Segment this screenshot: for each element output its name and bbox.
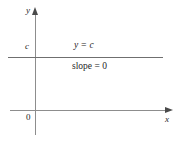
x-axis-line bbox=[10, 110, 168, 111]
equation-annotation: y = c bbox=[74, 41, 94, 51]
origin-label: 0 bbox=[26, 113, 31, 122]
constant-line-y-equals-c bbox=[8, 57, 163, 58]
y-axis-arrow-icon bbox=[32, 7, 38, 15]
y-axis-label: y bbox=[26, 6, 30, 15]
constant-function-figure: y x c 0 y = c slope = 0 bbox=[0, 0, 176, 141]
y-intercept-tick-label: c bbox=[25, 42, 29, 51]
x-axis-label: x bbox=[165, 115, 169, 124]
slope-annotation: slope = 0 bbox=[72, 62, 107, 72]
y-axis-line bbox=[35, 12, 36, 135]
x-axis-arrow-icon bbox=[165, 107, 173, 113]
